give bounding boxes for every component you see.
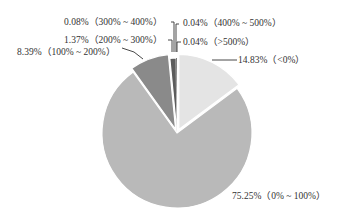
pie-chart: 14.83%（<0%） 75.25%（0% ~ 100%） 8.39%（100%… bbox=[0, 0, 347, 216]
label-300-400: 0.08%（300% ~ 400%） bbox=[64, 16, 163, 27]
pie-slices bbox=[102, 54, 252, 208]
label-lt0: 14.83%（<0%） bbox=[238, 54, 305, 65]
label-gt500: 0.04%（>500%） bbox=[183, 36, 255, 47]
label-400-500: 0.04%（400% ~ 500%） bbox=[183, 17, 282, 28]
label-200-300: 1.37%（200% ~ 300%） bbox=[64, 34, 163, 45]
label-100-200: 8.39%（100% ~ 200%） bbox=[17, 46, 116, 57]
label-0-100: 75.25%（0% ~ 100%） bbox=[232, 190, 326, 201]
